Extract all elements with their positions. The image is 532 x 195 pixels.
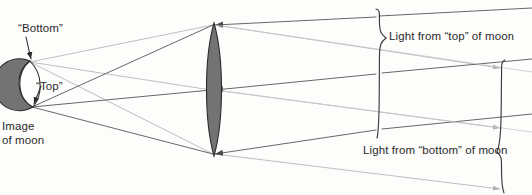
lens-body [207,23,222,156]
converging-lens [207,23,222,156]
label-image-of-moon: Image of moon [2,120,44,147]
brace-right-lower [497,152,504,193]
faint-ray-out-3 [215,154,500,189]
brace-right-upper [497,60,505,152]
ray-bundle-light-from-bottom [30,25,500,189]
label-light-from-top: Light from “top” of moon [389,30,514,44]
label-light-from-bottom: Light from “bottom” of moon [363,144,508,158]
faint-guide-2 [215,90,532,132]
label-image-of-moon-line1: Image [2,120,44,134]
brace-left-upper [376,9,386,38]
dark-ray-in-1 [32,25,213,107]
label-image-of-moon-line2: of moon [2,134,44,148]
optics-ray-diagram: “Bottom” “Top” Image of moon Light from … [0,0,532,195]
brace-light-from-bottom [497,60,505,193]
dark-ray-out-1 [215,17,376,25]
dark-ray-tail-1 [379,8,532,16]
bottom-callout-arrow [26,37,31,59]
dark-ray-out-2 [215,74,376,90]
label-bottom: “Bottom” [18,22,63,36]
dark-ray-tail-3 [382,114,532,129]
dark-ray-out-3 [215,130,376,154]
dark-ray-in-3 [32,107,213,154]
label-top: “Top” [36,80,63,94]
brace-left-lower [377,38,386,138]
brace-light-from-top [376,9,386,138]
